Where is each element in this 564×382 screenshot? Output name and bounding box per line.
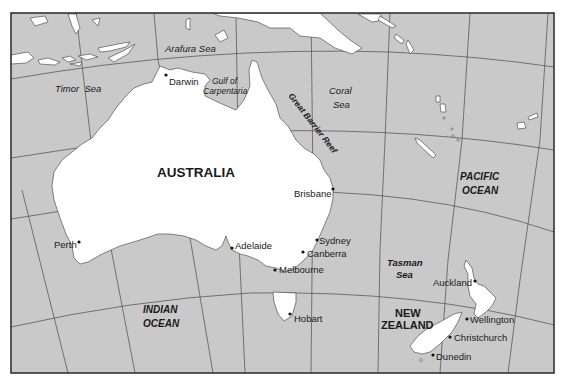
label-new-zealand-line2: ZEALAND (381, 319, 434, 331)
label-brisbane: Brisbane (294, 188, 332, 199)
city-hobart: Hobart (288, 312, 322, 324)
label-canberra: Canberra (307, 248, 347, 259)
label-tasman-sea-line2: Sea (396, 269, 413, 280)
city-adelaide: Adelaide (230, 240, 272, 251)
city-sydney: Sydney (315, 235, 351, 246)
city-melbourne: Melbourne (273, 264, 323, 275)
label-australia: AUSTRALIA (157, 165, 235, 180)
city-brisbane: Brisbane (294, 187, 335, 199)
city-christchurch: Christchurch (448, 332, 507, 343)
label-gulf-of-carpentaria-line1: Gulf of (212, 76, 239, 86)
label-pacific-ocean-line1: PACIFIC (460, 171, 500, 182)
label-wellington: Wellington (470, 314, 514, 325)
label-auckland: Auckland (433, 277, 472, 288)
label-dunedin: Dunedin (436, 351, 471, 362)
label-new-zealand-line1: NEW (395, 307, 421, 319)
label-coral-sea-line2: Sea (333, 99, 350, 110)
city-auckland: Auckland (433, 277, 477, 288)
label-indian-ocean-line2: OCEAN (143, 318, 180, 329)
label-gulf-of-carpentaria-line2: Carpentaria (203, 86, 248, 96)
label-adelaide: Adelaide (235, 240, 272, 251)
label-sydney: Sydney (319, 235, 351, 246)
label-darwin: Darwin (169, 76, 199, 87)
map-of-australia-and-new-zealand: Arafura Sea Timor Sea Gulf of Carpentari… (0, 0, 564, 382)
label-perth: Perth (54, 239, 77, 250)
label-hobart: Hobart (294, 313, 323, 324)
city-perth: Perth (54, 239, 81, 250)
city-wellington: Wellington (465, 314, 514, 325)
label-christchurch: Christchurch (454, 332, 507, 343)
city-dunedin: Dunedin (431, 351, 471, 362)
label-tasman-sea-line1: Tasman (387, 257, 423, 268)
label-pacific-ocean-line2: OCEAN (462, 185, 499, 196)
label-melbourne: Melbourne (279, 264, 324, 275)
label-timor-sea: Timor Sea (55, 83, 101, 94)
city-canberra: Canberra (301, 248, 347, 259)
city-darwin: Darwin (164, 73, 198, 87)
label-arafura-sea: Arafura Sea (164, 43, 216, 54)
label-indian-ocean-line1: INDIAN (143, 304, 178, 315)
label-coral-sea-line1: Coral (329, 85, 353, 96)
